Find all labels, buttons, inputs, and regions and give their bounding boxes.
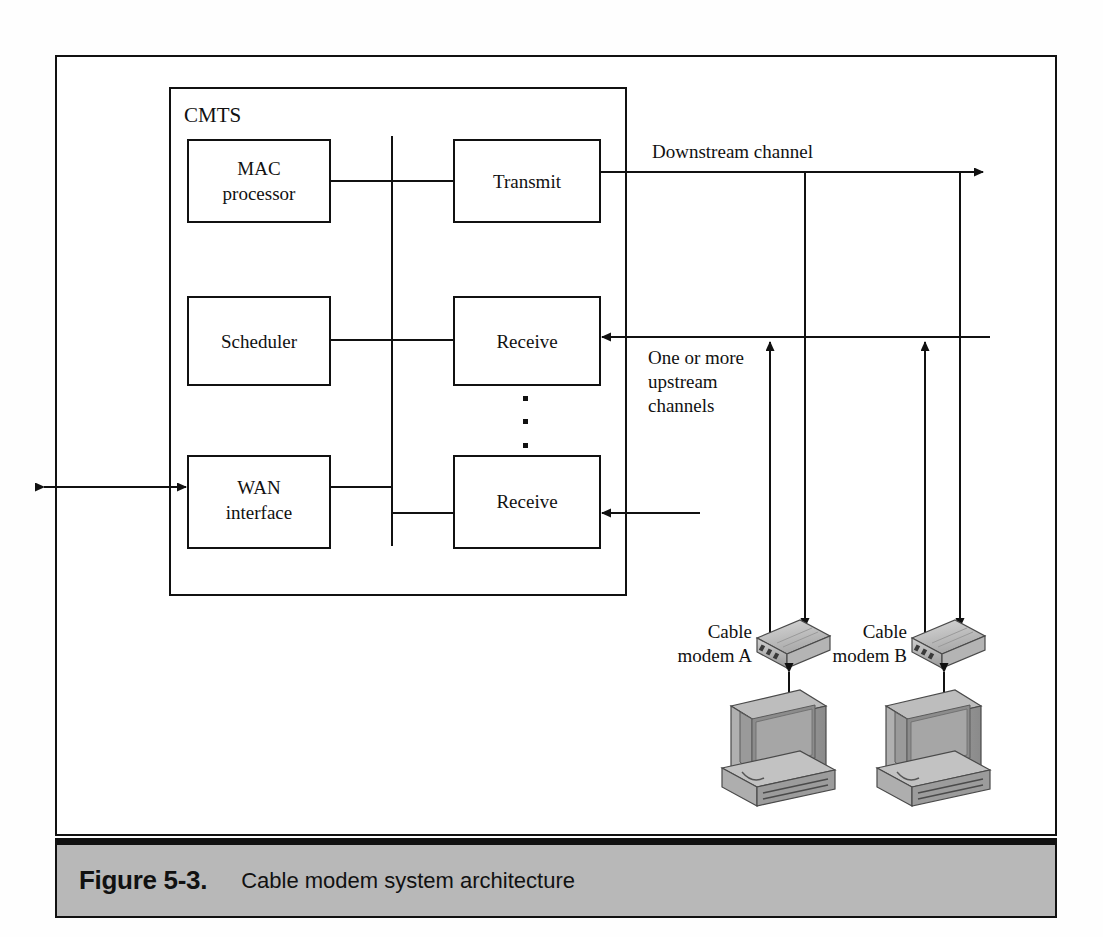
cmts-label: CMTS [184,103,241,127]
cable-modem-b-label-2: modem B [833,645,907,666]
cable-modem-a [757,620,830,668]
ellipsis-dot-3 [523,443,528,448]
upstream-channels-label-2: upstream [648,371,718,392]
block-transmit-label: Transmit [493,171,562,192]
diagram-canvas: CMTS MAC processor Transmit Scheduler Re… [0,0,1103,937]
cable-modem-a-label-2: modem A [678,645,753,666]
figure-caption-band: Figure 5-3. Cable modem system architect… [55,838,1057,918]
block-mac-processor-label-2: processor [223,183,296,204]
downstream-channel-label: Downstream channel [652,141,813,162]
figure-page: CMTS MAC processor Transmit Scheduler Re… [0,0,1103,937]
cable-modem-b [912,620,985,668]
block-receive-upper-label: Receive [496,331,557,352]
upstream-channels-label-1: One or more [648,347,744,368]
block-scheduler-label: Scheduler [221,331,298,352]
ellipsis-dot-2 [523,419,528,424]
block-mac-processor [188,140,330,222]
computer-b [877,690,990,806]
cable-modem-b-label-1: Cable [863,621,907,642]
figure-title: Cable modem system architecture [241,868,575,894]
block-wan-interface-label-1: WAN [237,477,281,498]
ellipsis-dot-1 [523,396,528,401]
upstream-channels-label-3: channels [648,395,714,416]
block-mac-processor-label-1: MAC [237,158,280,179]
block-wan-interface-label-2: interface [226,502,292,523]
computer-a [722,690,835,806]
block-receive-lower-label: Receive [496,491,557,512]
cable-modem-a-label-1: Cable [708,621,752,642]
figure-number: Figure 5-3. [79,865,207,896]
